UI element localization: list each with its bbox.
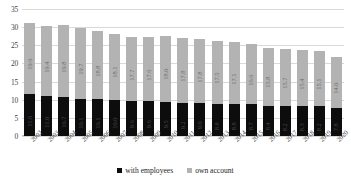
bar-segment-own-account[interactable]: 15.7 <box>280 49 291 106</box>
x-axis-tick: 2004 <box>58 137 69 163</box>
bar-segment-own-account[interactable]: 18.0 <box>160 36 171 101</box>
bar-segment-own-account[interactable]: 18.1 <box>109 34 120 100</box>
bar-column[interactable]: 16.68.7 <box>246 9 257 136</box>
bar-value-label: 19.7 <box>77 64 83 75</box>
bar-value-label: 16.6 <box>248 75 254 86</box>
bar-value-label: 17.5 <box>214 73 220 84</box>
bar-segment-own-account[interactable]: 15.1 <box>314 51 325 106</box>
bar-value-label: 8.8 <box>214 122 220 130</box>
y-axis-tick-label: 30 <box>0 23 18 32</box>
bar-value-label: 8.2 <box>282 123 288 131</box>
bar-value-label: 17.8 <box>197 71 203 82</box>
bar-value-label: 10.1 <box>94 118 100 129</box>
x-axis-tick: 2020 <box>331 137 342 163</box>
plot-area: 19.611.619.411.019.810.719.710.118.810.1… <box>22 9 344 136</box>
bar-segment-own-account[interactable]: 17.8 <box>194 39 205 104</box>
bar-series-group: 19.611.619.411.019.810.719.710.118.810.1… <box>22 9 344 136</box>
bar-value-label: 9.6 <box>129 120 135 128</box>
x-axis-tick: 2010 <box>160 137 171 163</box>
bar-value-label: 17.8 <box>180 71 186 82</box>
x-axis-tick: 2016 <box>263 137 274 163</box>
bar-segment-with-employees[interactable]: 9.0 <box>194 103 205 136</box>
bar-column[interactable]: 17.58.8 <box>212 9 223 136</box>
legend-item[interactable]: with employees <box>117 166 173 175</box>
bar-column[interactable]: 18.810.1 <box>92 9 103 136</box>
y-axis-tick-label: 20 <box>0 59 18 68</box>
bar-segment-with-employees[interactable]: 9.6 <box>143 101 154 136</box>
bar-value-label: 8.3 <box>299 123 305 131</box>
legend-item[interactable]: own account <box>187 166 234 175</box>
bar-value-label: 10.7 <box>60 117 66 128</box>
bar-segment-own-account[interactable]: 17.7 <box>126 37 137 101</box>
bar-value-label: 18.0 <box>163 69 169 80</box>
bar-column[interactable]: 17.89.0 <box>194 9 205 136</box>
bar-value-label: 14.0 <box>333 83 339 94</box>
bar-segment-own-account[interactable]: 17.8 <box>177 38 188 103</box>
bar-value-label: 15.1 <box>316 79 322 90</box>
bar-segment-with-employees[interactable]: 9.2 <box>177 103 188 136</box>
stacked-bar-chart: 05101520253035 19.611.619.411.019.810.71… <box>0 0 351 184</box>
x-axis-tick: 2005 <box>75 137 86 163</box>
y-axis-tick-label: 35 <box>0 5 18 14</box>
bar-column[interactable]: 17.79.6 <box>126 9 137 136</box>
bar-value-label: 11.6 <box>26 115 32 126</box>
bar-segment-with-employees[interactable]: 11.0 <box>41 96 52 136</box>
bar-segment-own-account[interactable]: 19.8 <box>58 25 69 97</box>
bar-value-label: 10.1 <box>77 118 83 129</box>
bar-segment-own-account[interactable]: 17.5 <box>212 41 223 105</box>
y-axis-tick-label: 15 <box>0 77 18 86</box>
bar-segment-own-account[interactable]: 15.4 <box>297 50 308 106</box>
bar-value-label: 9.5 <box>163 121 169 129</box>
bar-value-label: 19.8 <box>60 61 66 72</box>
bar-segment-own-account[interactable]: 19.6 <box>24 23 35 94</box>
bar-segment-own-account[interactable]: 17.6 <box>143 37 154 101</box>
bar-value-label: 19.4 <box>43 61 49 72</box>
bar-column[interactable]: 14.07.8 <box>331 9 342 136</box>
bar-segment-with-employees[interactable]: 10.1 <box>92 99 103 136</box>
bar-column[interactable]: 19.810.7 <box>58 9 69 136</box>
x-axis-tick: 2009 <box>143 137 154 163</box>
bar-segment-with-employees[interactable]: 9.6 <box>126 101 137 136</box>
bar-value-label: 18.1 <box>112 67 118 78</box>
bar-column[interactable]: 19.411.0 <box>41 9 52 136</box>
bar-column[interactable]: 15.18.2 <box>314 9 325 136</box>
bar-column[interactable]: 15.88.4 <box>263 9 274 136</box>
bar-segment-own-account[interactable]: 14.0 <box>331 57 342 108</box>
bar-column[interactable]: 15.48.3 <box>297 9 308 136</box>
bar-segment-own-account[interactable]: 18.8 <box>92 31 103 99</box>
bar-segment-with-employees[interactable]: 9.5 <box>160 102 171 136</box>
bar-segment-with-employees[interactable]: 10.1 <box>75 99 86 136</box>
bar-column[interactable]: 17.69.6 <box>143 9 154 136</box>
bar-value-label: 10.0 <box>112 118 118 129</box>
bar-segment-with-employees[interactable]: 10.0 <box>109 100 120 136</box>
bar-value-label: 17.1 <box>231 73 237 84</box>
x-axis-tick: 2012 <box>194 137 205 163</box>
bar-column[interactable]: 18.09.5 <box>160 9 171 136</box>
bar-column[interactable]: 17.18.8 <box>229 9 240 136</box>
bar-segment-own-account[interactable]: 19.4 <box>41 26 52 96</box>
x-axis-tick: 2007 <box>109 137 120 163</box>
bar-segment-own-account[interactable]: 17.1 <box>229 42 240 104</box>
bar-value-label: 17.6 <box>146 69 152 80</box>
bar-column[interactable]: 19.611.6 <box>24 9 35 136</box>
legend-label: own account <box>195 166 234 175</box>
bar-value-label: 8.8 <box>231 122 237 130</box>
x-axis-tick: 2008 <box>126 137 137 163</box>
legend-swatch-icon <box>187 168 192 173</box>
chart-legend: with employeesown account <box>0 166 351 175</box>
legend-swatch-icon <box>117 168 122 173</box>
bar-value-label: 8.4 <box>265 123 271 131</box>
bar-column[interactable]: 19.710.1 <box>75 9 86 136</box>
bar-segment-own-account[interactable]: 16.6 <box>246 44 257 104</box>
y-axis-tick-label: 10 <box>0 95 18 104</box>
bar-segment-with-employees[interactable]: 10.7 <box>58 97 69 136</box>
bar-column[interactable]: 18.110.0 <box>109 9 120 136</box>
bar-segment-with-employees[interactable]: 11.6 <box>24 94 35 136</box>
bar-segment-own-account[interactable]: 15.8 <box>263 48 274 105</box>
y-axis-tick-label: 5 <box>0 113 18 122</box>
y-axis-tick-label: 0 <box>0 132 18 141</box>
bar-segment-own-account[interactable]: 19.7 <box>75 28 86 99</box>
bar-column[interactable]: 15.78.2 <box>280 9 291 136</box>
bar-column[interactable]: 17.89.2 <box>177 9 188 136</box>
x-axis-tick: 2011 <box>177 137 188 163</box>
